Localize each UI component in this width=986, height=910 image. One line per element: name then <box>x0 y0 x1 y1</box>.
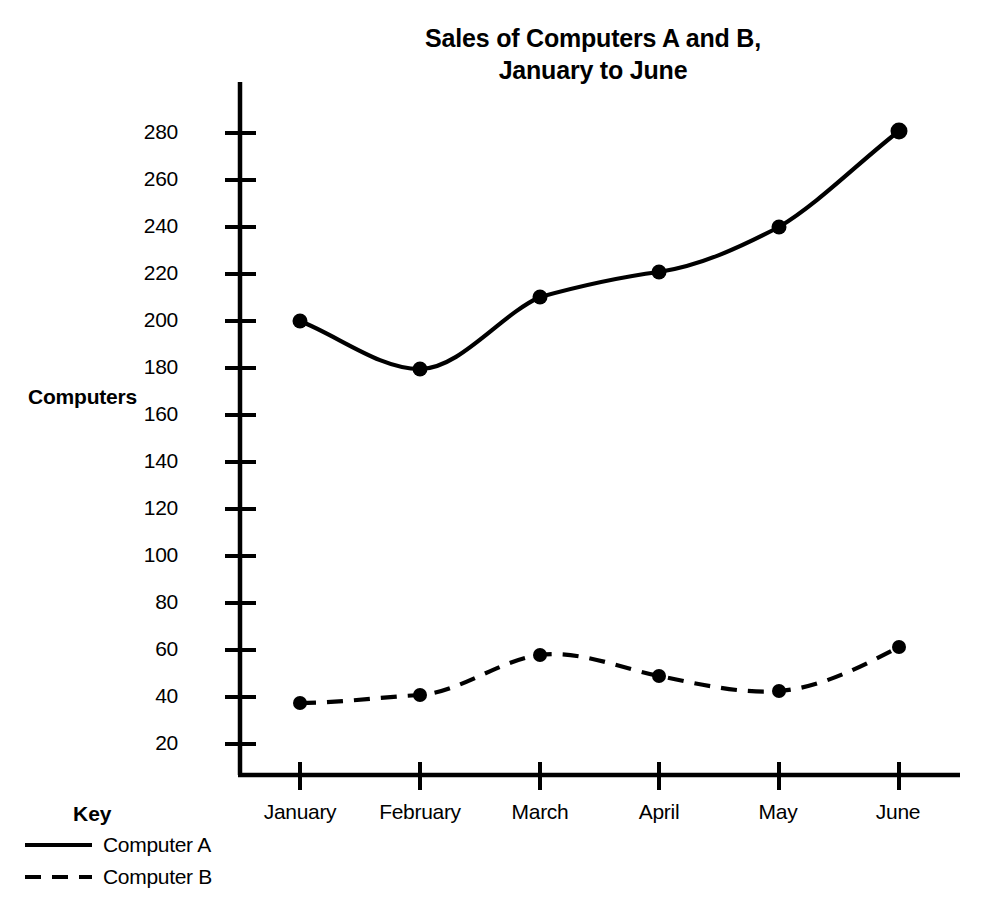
series-line-computer-a <box>300 131 899 369</box>
data-point-a-march <box>533 290 548 305</box>
data-point-a-june <box>891 123 908 140</box>
data-point-a-may <box>772 220 787 235</box>
series-line-computer-b <box>300 647 899 703</box>
data-point-a-april <box>652 265 667 280</box>
data-point-b-january <box>293 696 307 710</box>
data-point-b-june <box>892 640 906 654</box>
data-point-b-february <box>413 688 427 702</box>
data-point-a-january <box>293 314 308 329</box>
line-chart: Sales of Computers A and B, January to J… <box>0 0 986 910</box>
data-point-b-may <box>772 684 786 698</box>
plot-area <box>0 0 986 910</box>
series-markers-computer-a <box>293 123 908 377</box>
data-point-b-april <box>652 669 666 683</box>
data-point-b-march <box>533 648 547 662</box>
data-point-a-february <box>413 362 428 377</box>
